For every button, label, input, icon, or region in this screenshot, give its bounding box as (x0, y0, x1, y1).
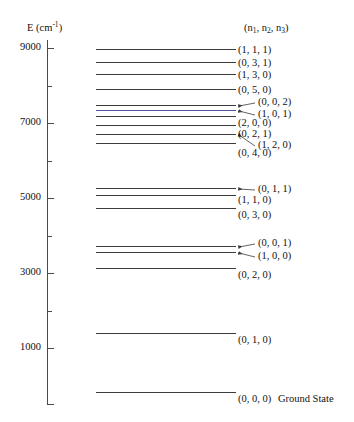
energy-level-label: (1, 1, 0) (238, 194, 271, 205)
energy-level-label: (0, 0, 1) (258, 237, 291, 248)
energy-level-line (96, 333, 236, 334)
quantum-number-column-header: (n1, n2, n3) (244, 22, 289, 33)
energy-level-label-text: (2, 0, 0) (238, 117, 271, 128)
y-axis-tick-label: 3000 (1, 266, 41, 277)
leader-line (239, 244, 255, 247)
energy-level-line (96, 74, 236, 75)
energy-level-label-text: (0, 2, 0) (238, 269, 271, 280)
energy-level-line (96, 392, 236, 393)
energy-level-line (96, 268, 236, 269)
y-axis-line (47, 40, 48, 404)
energy-level-label: (0, 0, 0) Ground State (238, 393, 334, 404)
energy-level-line (96, 105, 236, 106)
y-axis-title: E (cm-1) (27, 22, 62, 33)
leader-line (239, 103, 255, 106)
energy-level-line (96, 188, 236, 189)
y-axis-major-tick (47, 348, 54, 349)
energy-level-line (96, 49, 236, 50)
energy-level-label: (0, 4, 0) (238, 147, 271, 158)
header-mid-2: , n (271, 22, 282, 33)
energy-level-label-text: (0, 3, 0) (238, 209, 271, 220)
energy-level-line (96, 89, 236, 90)
energy-level-diagram: E (cm-1) (n1, n2, n3) 900070005000300010… (0, 0, 354, 422)
energy-level-label-text: (1, 3, 0) (238, 69, 271, 80)
y-axis-title-main: E (cm (27, 22, 52, 33)
energy-level-label: (0, 1, 1) (258, 183, 291, 194)
y-axis-title-close: ) (59, 22, 63, 33)
leader-line (239, 111, 255, 115)
energy-level-label-text: (1, 1, 1) (238, 44, 271, 55)
leader-lines (0, 0, 354, 422)
energy-level-label: (0, 0, 2) (258, 96, 291, 107)
energy-level-label: (2, 0, 0) (238, 117, 271, 128)
energy-level-label-text: (0, 0, 0) (238, 393, 271, 404)
energy-level-line (96, 116, 236, 117)
energy-level-label-text: (0, 3, 1) (238, 57, 271, 68)
y-axis-foot-tick (47, 404, 54, 405)
energy-level-label-text: (0, 2, 1) (238, 128, 271, 139)
energy-level-label: (0, 1, 0) (238, 334, 271, 345)
energy-level-label: (0, 2, 1) (238, 128, 271, 139)
header-sub-3: 3 (281, 26, 285, 35)
y-axis-tick-label: 5000 (1, 191, 41, 202)
header-sub-2: 2 (267, 26, 271, 35)
leader-line (239, 189, 255, 190)
energy-level-label: (0, 3, 0) (238, 209, 271, 220)
energy-level-label: (0, 3, 1) (238, 57, 271, 68)
header-sub-1: 1 (253, 26, 257, 35)
header-close-paren: ) (285, 22, 289, 33)
energy-level-line (96, 62, 236, 63)
energy-level-line (96, 246, 236, 247)
energy-level-label: (1, 0, 0) (258, 250, 291, 261)
energy-level-label: (1, 3, 0) (238, 69, 271, 80)
energy-level-label-text: (0, 4, 0) (238, 147, 271, 158)
energy-level-line (96, 125, 236, 126)
ground-state-text: Ground State (275, 393, 333, 404)
energy-level-label: (1, 1, 1) (238, 44, 271, 55)
energy-level-label-text: (0, 5, 0) (238, 84, 271, 95)
energy-level-label-text: (0, 0, 1) (258, 237, 291, 248)
energy-level-line (96, 143, 236, 144)
energy-level-label-text: (0, 0, 2) (258, 96, 291, 107)
y-axis-minor-tick (47, 86, 52, 87)
y-axis-minor-tick (47, 311, 52, 312)
energy-level-line (96, 134, 236, 135)
header-open-paren: (n (244, 22, 253, 33)
energy-level-line (96, 195, 236, 196)
energy-level-label: (0, 5, 0) (238, 84, 271, 95)
energy-level-label-text: (0, 1, 1) (258, 183, 291, 194)
energy-level-label: (0, 2, 0) (238, 269, 271, 280)
y-axis-major-tick (47, 198, 54, 199)
y-axis-minor-tick (47, 161, 52, 162)
energy-level-label-text: (0, 1, 0) (238, 334, 271, 345)
y-axis-major-tick (47, 48, 54, 49)
energy-level-label-text: (1, 0, 0) (258, 250, 291, 261)
y-axis-major-tick (47, 273, 54, 274)
y-axis-major-tick (47, 123, 54, 124)
y-axis-minor-tick (47, 236, 52, 237)
energy-level-line (96, 252, 236, 253)
y-axis-title-exponent: -1 (52, 20, 58, 29)
header-mid-1: , n (257, 22, 268, 33)
energy-level-line (96, 208, 236, 209)
leader-line (239, 253, 255, 257)
energy-level-line (96, 110, 236, 111)
y-axis-tick-label: 1000 (1, 341, 41, 352)
y-axis-tick-label: 9000 (1, 41, 41, 52)
energy-level-label-text: (1, 1, 0) (238, 194, 271, 205)
y-axis-tick-label: 7000 (1, 116, 41, 127)
